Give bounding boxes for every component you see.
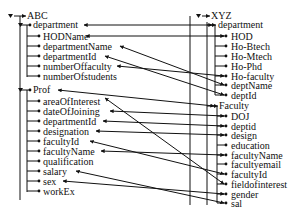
mapping-line[interactable] xyxy=(63,181,224,194)
source-department-fields: HODName departmentName departmentId numb… xyxy=(27,31,117,82)
field-workEx: workEx xyxy=(43,186,75,197)
source-schema-tree: ABC department HODName departmentName de… xyxy=(8,10,117,200)
mapping-line[interactable] xyxy=(96,131,224,135)
mapping-line[interactable] xyxy=(76,171,224,203)
triangle-down-icon[interactable] xyxy=(196,14,201,18)
mapping-line[interactable] xyxy=(103,121,224,126)
source-group-department: department xyxy=(33,19,78,30)
schema-mapping-diagram: ABC department HODName departmentName de… xyxy=(0,0,297,213)
field-sal: sal xyxy=(231,198,242,209)
mapping-line[interactable] xyxy=(117,66,224,76)
mapping-line[interactable] xyxy=(105,56,224,95)
field-numberOfstudents: numberOfstudents xyxy=(43,71,117,82)
mapping-line[interactable] xyxy=(105,98,224,184)
mapping-line[interactable] xyxy=(120,46,224,85)
target-group-faculty: Faculty xyxy=(219,100,249,111)
target-schema-tree: XYZ department HOD Ho-Btech Ho-Mtech Ho-… xyxy=(190,10,287,209)
mapping-line[interactable] xyxy=(90,141,224,174)
target-department-fields: HOD Ho-Btech Ho-Mtech Ho-Phd Ho-faculty … xyxy=(215,31,274,101)
field-deptId: deptId xyxy=(231,90,257,101)
target-group-department: department xyxy=(218,19,263,30)
triangle-down-icon[interactable] xyxy=(8,14,13,18)
target-faculty-fields: DOJ deptid design education facultyName … xyxy=(217,111,287,209)
mapping-line[interactable] xyxy=(101,151,224,155)
source-group-prof: Prof xyxy=(33,84,51,95)
